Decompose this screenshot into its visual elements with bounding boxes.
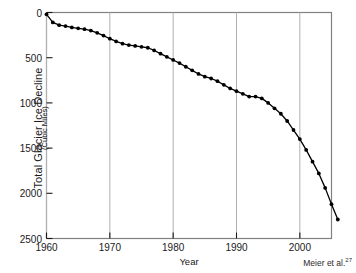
x-tick-label-2000: 2000: [289, 242, 311, 253]
data-point: [102, 34, 106, 38]
data-point: [254, 95, 258, 99]
data-point: [247, 95, 251, 99]
x-tick-label-1970: 1970: [99, 242, 121, 253]
data-point: [266, 101, 270, 105]
data-point: [203, 75, 207, 79]
x-tick-label-1990: 1990: [225, 242, 247, 253]
x-tick-label-1980: 1980: [162, 242, 184, 253]
x-tick-label-1960: 1960: [35, 242, 57, 253]
data-point: [317, 172, 321, 176]
data-point: [216, 79, 220, 83]
data-point: [311, 160, 315, 164]
data-point: [83, 27, 87, 31]
y-tick-label-2000: 2000: [20, 188, 42, 199]
y-tick-label-1500: 1500: [20, 143, 42, 154]
data-point: [304, 148, 308, 152]
data-point: [121, 42, 125, 46]
plot-frame: [47, 13, 332, 239]
data-point: [260, 96, 264, 100]
data-point: [285, 119, 289, 123]
data-point: [95, 31, 99, 35]
data-point: [140, 45, 144, 49]
y-tick-label-0: 0: [36, 7, 42, 18]
data-point: [279, 112, 283, 116]
data-point: [298, 137, 302, 141]
data-point: [178, 61, 182, 65]
data-point: [323, 186, 327, 190]
data-point: [152, 49, 156, 53]
data-point: [197, 72, 201, 76]
data-point: [165, 55, 169, 59]
citation-text: Meier et al.: [303, 258, 345, 268]
data-point: [133, 44, 137, 48]
y-tick-label-1000: 1000: [20, 97, 42, 108]
y-axis-tick-labels: 05001000150020002500: [0, 0, 42, 273]
data-point: [108, 37, 112, 41]
data-point: [209, 77, 213, 81]
source-citation: Meier et al.27: [303, 257, 352, 268]
data-point: [159, 52, 163, 56]
data-point: [127, 43, 131, 47]
data-point: [292, 128, 296, 132]
y-tick-label-500: 500: [25, 52, 42, 63]
data-point: [89, 29, 93, 33]
data-point: [64, 24, 68, 28]
glacier-ice-decline-chart: Total Glacier Ice Decline (Cubic Miles) …: [0, 0, 356, 273]
data-point: [45, 12, 49, 16]
data-point: [146, 46, 150, 50]
data-point: [76, 26, 80, 30]
data-point: [330, 202, 334, 206]
data-point: [273, 106, 277, 110]
citation-superscript: 27: [345, 257, 352, 263]
data-point: [57, 23, 61, 27]
plot-area: [0, 0, 356, 273]
data-point: [114, 40, 118, 44]
data-point: [171, 58, 175, 62]
data-point: [241, 92, 245, 96]
data-point: [70, 26, 74, 30]
data-point: [336, 218, 340, 222]
data-point: [228, 87, 232, 91]
data-point: [222, 83, 226, 87]
x-axis-title: Year: [179, 256, 198, 267]
data-point: [51, 21, 55, 25]
data-point: [184, 65, 188, 69]
data-point: [235, 89, 239, 93]
data-point: [190, 68, 194, 72]
